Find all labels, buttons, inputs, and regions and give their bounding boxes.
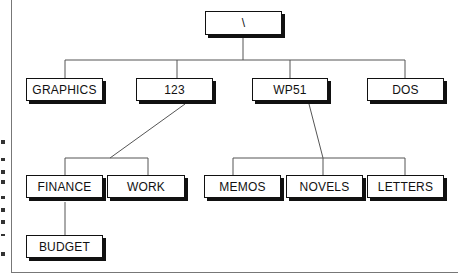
node-finance: FINANCE [26,175,103,198]
node-work: WORK [107,175,185,198]
node-letters: LETTERS [367,175,444,198]
node-budget: BUDGET [26,235,103,258]
node-graphics: GRAPHICS [26,78,103,101]
node-novels: NOVELS [286,175,363,198]
node-123: 123 [136,78,213,101]
node-memos: MEMOS [204,175,281,198]
node-root: \ [205,11,282,35]
node-wp51: WP51 [252,78,328,101]
node-dos: DOS [367,78,444,101]
